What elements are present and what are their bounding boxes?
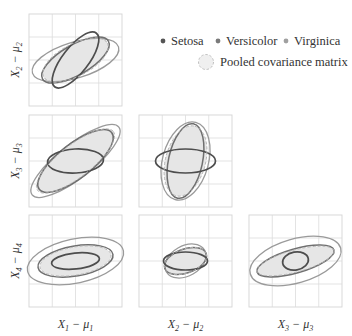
row-labels: X2 − μ2X3 − μ3X4 − μ4 [8, 42, 24, 279]
panel-r2-c1 [22, 114, 130, 209]
panel-r2-c2 [139, 115, 232, 207]
legend-label-setosa: Setosa [171, 34, 204, 48]
legend: Setosa Versicolor Virginica Pooled covar… [161, 34, 349, 70]
row-label-2: X2 − μ2 [8, 42, 24, 78]
legend-pooled-icon [199, 55, 214, 70]
legend-dot-setosa [161, 39, 166, 44]
covariance-ellipse-matrix: X2 − μ2X3 − μ3X4 − μ4 X1 − μ1X2 − μ2X3 −… [0, 0, 352, 336]
legend-label-pooled: Pooled covariance matrix [220, 55, 348, 69]
col-label-1: X1 − μ1 [57, 317, 93, 333]
legend-label-versicolor: Versicolor [226, 34, 278, 48]
row-label-3: X3 − μ3 [8, 143, 24, 179]
panel-r3-c1 [23, 215, 128, 307]
col-labels: X1 − μ1X2 − μ2X3 − μ3 [57, 317, 313, 333]
col-label-3: X3 − μ3 [277, 317, 313, 333]
col-label-2: X2 − μ2 [167, 317, 203, 333]
row-label-4: X4 − μ4 [8, 243, 24, 279]
legend-dot-versicolor [216, 39, 221, 44]
panel-r3-c2 [139, 215, 232, 307]
panel-r1-c1 [27, 14, 124, 106]
panel-r3-c3 [244, 215, 346, 307]
legend-dot-virginica [284, 39, 289, 44]
legend-label-virginica: Virginica [294, 34, 341, 48]
